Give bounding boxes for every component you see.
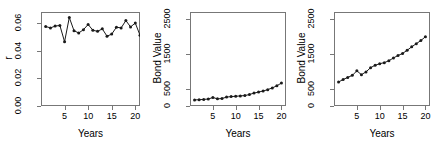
y-tick-mark: [186, 54, 190, 55]
x-tick-mark: [236, 106, 237, 110]
y-tick-label: 0.06: [14, 6, 23, 40]
y-tick-mark: [37, 78, 41, 79]
x-tick-mark: [88, 106, 89, 110]
x-axis-title: Years: [334, 129, 430, 139]
y-tick-mark: [37, 51, 41, 52]
x-axis-title: Years: [190, 129, 286, 139]
y-tick-label: 500: [307, 71, 316, 105]
plot-panel-interest-rate: 51015200.000.020.040.06 Years r: [0, 0, 145, 147]
y-axis-title: Bond Value: [297, 11, 307, 105]
y-axis-title: r: [4, 11, 14, 105]
plot-panel-bond-value-high: 5101520050015002500 Years Bond Value: [289, 0, 434, 147]
y-tick-mark: [186, 89, 190, 90]
plot-series-bond-value: [190, 12, 286, 106]
y-tick-mark: [37, 106, 41, 107]
y-tick-label: 2500: [307, 1, 316, 35]
y-tick-mark: [330, 89, 334, 90]
x-tick-mark: [213, 106, 214, 110]
x-axis-title: Years: [41, 129, 140, 139]
plot-series-bond-value: [334, 12, 430, 106]
y-tick-mark: [186, 106, 190, 107]
y-tick-mark: [37, 23, 41, 24]
plot-series-r: [41, 12, 140, 106]
x-tick-mark: [259, 106, 260, 110]
x-tick-mark: [135, 106, 136, 110]
y-tick-mark: [186, 19, 190, 20]
x-tick-mark: [112, 106, 113, 110]
y-tick-label: 1500: [307, 36, 316, 70]
y-tick-mark: [330, 106, 334, 107]
x-tick-mark: [380, 106, 381, 110]
y-tick-label: 1500: [163, 36, 172, 70]
x-tick-mark: [357, 106, 358, 110]
y-tick-mark: [330, 54, 334, 55]
x-tick-label: 20: [410, 112, 434, 121]
y-tick-label: 2500: [163, 1, 172, 35]
x-tick-mark: [281, 106, 282, 110]
plot-panel-bond-value-low: 5101520050015002500 Years Bond Value: [145, 0, 290, 147]
y-axis-title: Bond Value: [153, 11, 163, 105]
x-tick-mark: [425, 106, 426, 110]
x-tick-mark: [65, 106, 66, 110]
x-tick-mark: [403, 106, 404, 110]
y-tick-mark: [330, 19, 334, 20]
three-panel-figure: 51015200.000.020.040.06 Years r 51015200…: [0, 0, 434, 147]
y-tick-label: 500: [163, 71, 172, 105]
